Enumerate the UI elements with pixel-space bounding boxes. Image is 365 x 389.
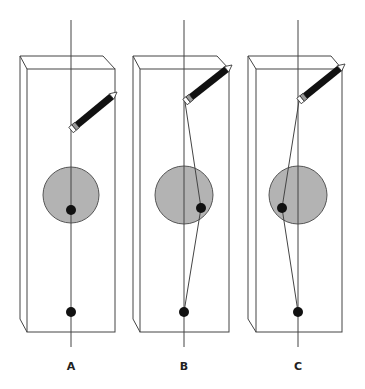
box-top-edge xyxy=(133,56,229,69)
box-top-edge xyxy=(20,56,115,69)
pencil-body xyxy=(189,67,229,100)
box-side-edge xyxy=(248,56,256,332)
panel-b xyxy=(133,20,234,347)
panel-label-b: B xyxy=(180,360,188,373)
panel-c xyxy=(248,20,347,347)
pencil-icon xyxy=(69,89,119,132)
upper-dot xyxy=(196,203,206,213)
lower-dot xyxy=(293,307,303,317)
diagram-canvas xyxy=(0,0,365,389)
box-top-edge xyxy=(248,56,342,69)
pencil-body xyxy=(75,94,114,128)
pencil-body xyxy=(303,66,342,99)
box-side-edge xyxy=(20,56,27,332)
upper-dot xyxy=(277,203,287,213)
pencil-icon xyxy=(297,61,347,103)
box-side-edge xyxy=(133,56,140,332)
upper-dot xyxy=(66,205,76,215)
lower-dot xyxy=(66,307,76,317)
lower-dot xyxy=(179,307,189,317)
panel-a xyxy=(20,20,119,347)
panel-label-c: C xyxy=(294,360,302,373)
panel-label-a: A xyxy=(67,360,76,373)
